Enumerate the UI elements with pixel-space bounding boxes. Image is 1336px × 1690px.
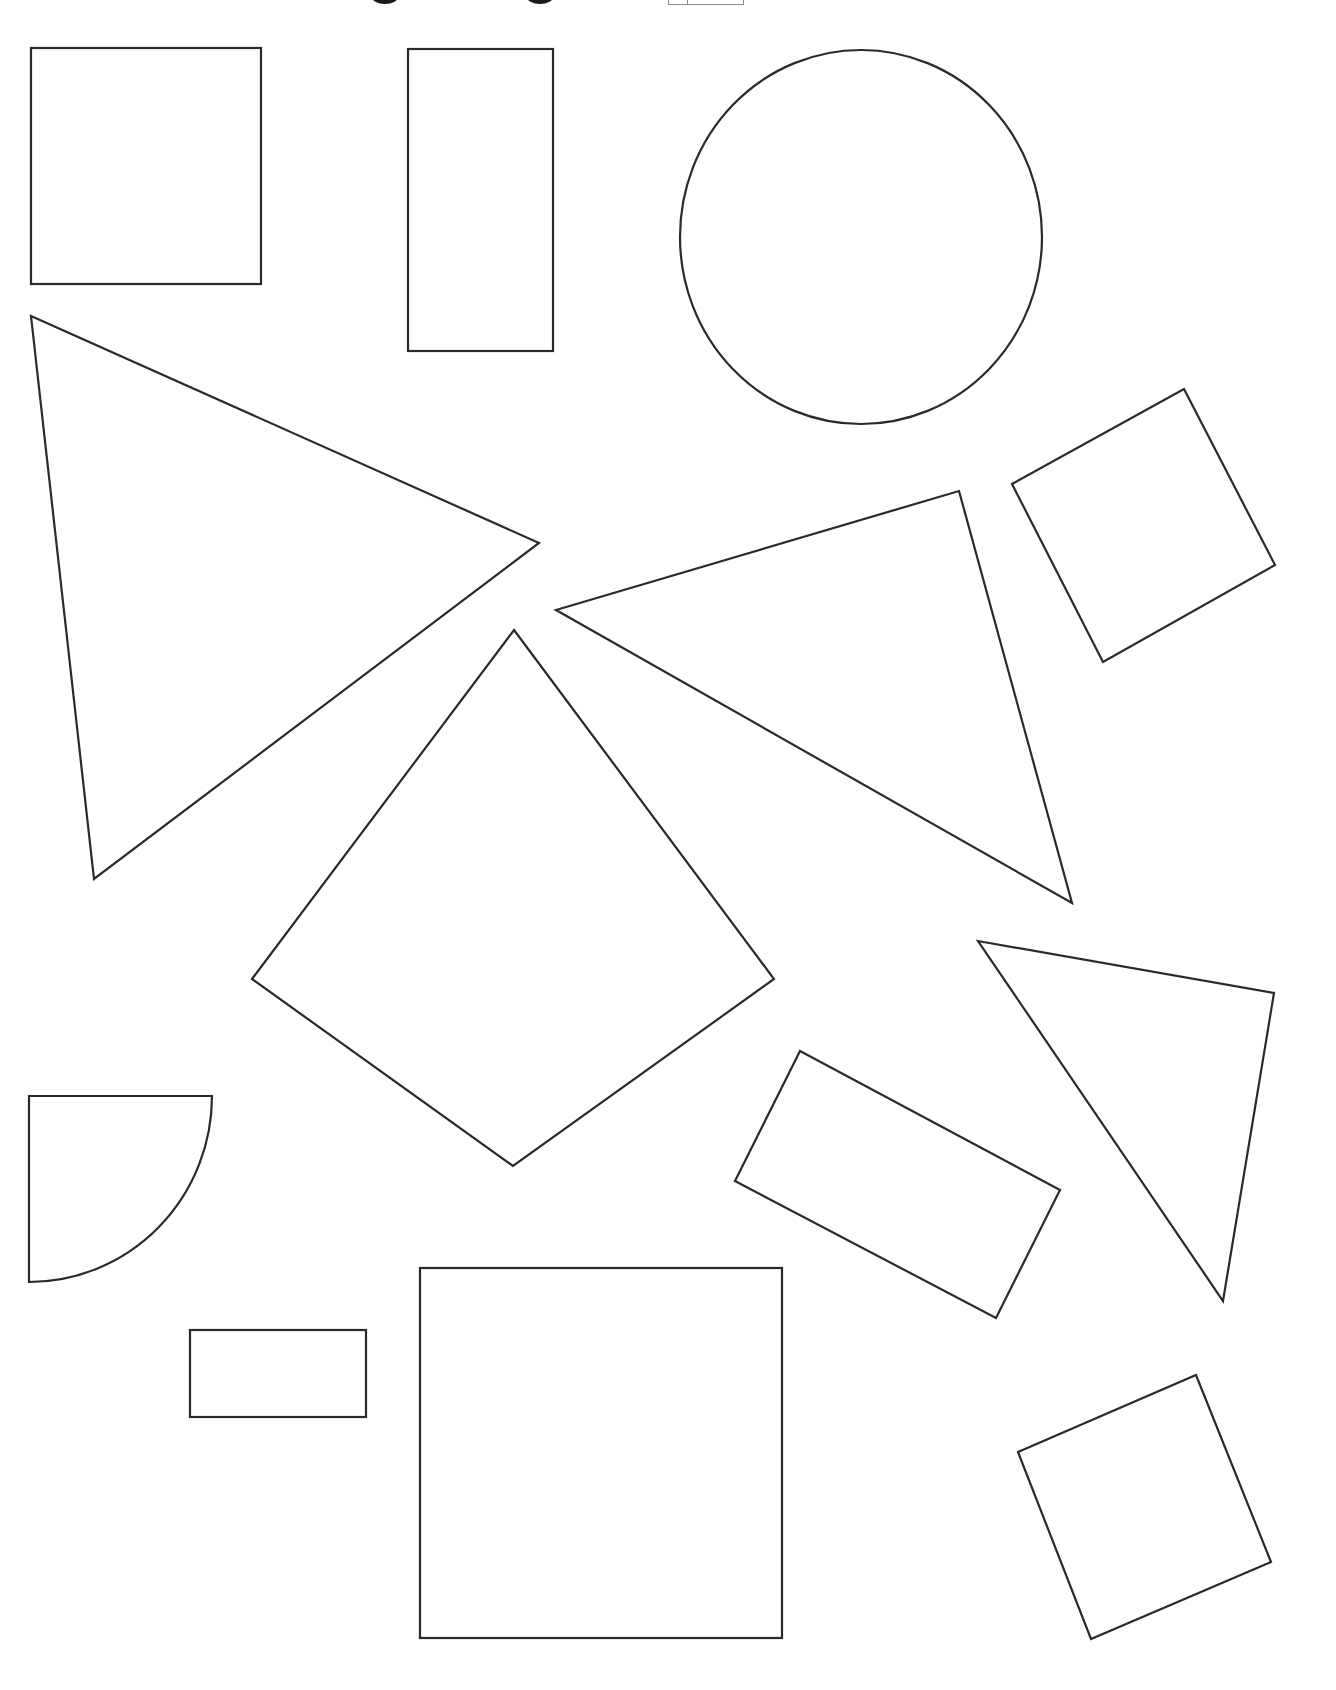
tilted-square-right-shape (1012, 389, 1275, 662)
tall-rectangle-shape (408, 49, 553, 351)
diamond-shape (252, 630, 774, 1166)
large-square-bottom-shape (420, 1268, 782, 1638)
worksheet-page (0, 0, 1336, 1690)
tilted-rectangle-shape (735, 1051, 1060, 1318)
tilted-square-bottom-right-shape (1018, 1375, 1271, 1639)
small-rectangle-shape (190, 1330, 366, 1417)
shapes-canvas (0, 0, 1336, 1690)
quarter-circle-shape (29, 1096, 212, 1282)
square-top-left-shape (31, 48, 261, 284)
circle-shape (680, 50, 1042, 424)
